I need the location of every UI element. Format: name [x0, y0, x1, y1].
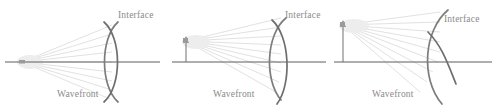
- panel-3: Interface Wavefront: [334, 10, 492, 104]
- panel-1: Interface Wavefront: [5, 10, 160, 102]
- wavefront-label: Wavefront: [57, 89, 99, 99]
- source-point: [183, 38, 188, 43]
- panel-2: Interface Wavefront: [172, 10, 326, 104]
- figure-canvas: Interface Wavefront I: [0, 0, 500, 110]
- ray: [343, 25, 427, 82]
- interface-label: Interface: [118, 10, 154, 20]
- wavefront-label: Wavefront: [372, 89, 414, 99]
- source-point: [19, 60, 25, 64]
- source-point: [340, 22, 345, 27]
- interface-label: Interface: [444, 14, 480, 24]
- interface-label: Interface: [285, 10, 321, 20]
- wavefront-label: Wavefront: [213, 89, 255, 99]
- panel-2-rays: [186, 18, 281, 92]
- interface-curve: [428, 32, 456, 84]
- ray: [343, 25, 420, 92]
- wavefront-figure: Interface Wavefront I: [0, 0, 500, 110]
